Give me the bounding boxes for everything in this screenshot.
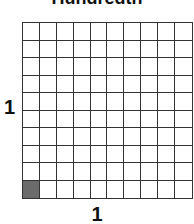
grid-cell — [91, 23, 108, 41]
grid-cell — [141, 23, 158, 41]
grid-cell — [23, 58, 40, 76]
grid-cell — [57, 181, 74, 199]
grid-cell — [23, 76, 40, 94]
grid-cell — [107, 128, 124, 146]
grid-cell — [74, 76, 91, 94]
grid-cell — [158, 41, 175, 59]
grid-cell — [23, 93, 40, 111]
grid-cell — [158, 93, 175, 111]
grid-cell — [57, 111, 74, 129]
grid-cell — [141, 163, 158, 181]
grid-cell — [91, 128, 108, 146]
grid-cell — [141, 93, 158, 111]
grid-cell — [74, 93, 91, 111]
grid-cell — [107, 58, 124, 76]
grid-cell — [158, 58, 175, 76]
grid-cell — [23, 111, 40, 129]
grid-cell — [107, 181, 124, 199]
bottom-length-label: 1 — [0, 203, 194, 224]
grid-cell — [40, 93, 57, 111]
grid-cell — [40, 163, 57, 181]
grid-cell — [141, 41, 158, 59]
side-length-label: 1 — [4, 96, 15, 119]
grid-cell — [91, 93, 108, 111]
grid-cell — [40, 41, 57, 59]
grid-cell — [107, 23, 124, 41]
grid-cell — [141, 76, 158, 94]
grid-cell — [57, 58, 74, 76]
grid-cell — [23, 23, 40, 41]
grid-cell — [158, 76, 175, 94]
grid-cell — [124, 128, 141, 146]
grid-cell — [40, 128, 57, 146]
grid-cell — [40, 76, 57, 94]
grid-cell — [175, 93, 192, 111]
grid-cell — [57, 76, 74, 94]
grid-cell — [91, 76, 108, 94]
grid-cell — [107, 41, 124, 59]
grid-cell — [141, 111, 158, 129]
grid-cell — [40, 58, 57, 76]
grid-cell — [40, 111, 57, 129]
shaded-grid-cell — [23, 181, 40, 199]
grid-cell — [107, 163, 124, 181]
grid-cell — [23, 163, 40, 181]
grid-cell — [40, 146, 57, 164]
grid-cell — [107, 111, 124, 129]
grid-cell — [175, 41, 192, 59]
grid-cell — [91, 181, 108, 199]
grid-cell — [74, 41, 91, 59]
grid-cell — [91, 163, 108, 181]
grid-cell — [23, 146, 40, 164]
grid-cell — [57, 163, 74, 181]
grid-cell — [175, 163, 192, 181]
grid-cell — [175, 181, 192, 199]
grid-cell — [158, 111, 175, 129]
grid-cell — [175, 58, 192, 76]
grid-cell — [74, 58, 91, 76]
grid-cell — [175, 76, 192, 94]
grid-cell — [107, 76, 124, 94]
grid-cell — [107, 93, 124, 111]
grid-cell — [158, 163, 175, 181]
grid-cell — [158, 146, 175, 164]
grid-cell — [74, 23, 91, 41]
grid-cell — [124, 146, 141, 164]
grid-cell — [158, 181, 175, 199]
grid-cell — [91, 146, 108, 164]
grid-cell — [23, 41, 40, 59]
grid-cell — [124, 58, 141, 76]
grid-cell — [91, 41, 108, 59]
grid-cell — [141, 146, 158, 164]
grid-cell — [74, 146, 91, 164]
grid-cell — [57, 23, 74, 41]
grid-cell — [74, 181, 91, 199]
grid-cell — [57, 41, 74, 59]
grid-cell — [124, 76, 141, 94]
grid-cell — [141, 58, 158, 76]
grid-cell — [158, 23, 175, 41]
grid-cell — [124, 181, 141, 199]
grid-cell — [40, 23, 57, 41]
grid-cell — [124, 41, 141, 59]
grid-cell — [158, 128, 175, 146]
grid-cell — [107, 146, 124, 164]
grid-cell — [57, 93, 74, 111]
grid-cell — [124, 23, 141, 41]
grid-cell — [57, 146, 74, 164]
grid-cell — [124, 93, 141, 111]
grid-cell — [23, 128, 40, 146]
grid-cell — [175, 111, 192, 129]
grid-cell — [57, 128, 74, 146]
grid-cell — [175, 146, 192, 164]
grid-cell — [74, 128, 91, 146]
hundredths-grid — [22, 22, 193, 199]
diagram-title: Hundredth — [0, 0, 194, 9]
grid-cell — [175, 128, 192, 146]
grid-cell — [91, 111, 108, 129]
grid-cell — [124, 163, 141, 181]
grid-cell — [175, 23, 192, 41]
grid-cell — [141, 181, 158, 199]
grid-cell — [74, 163, 91, 181]
grid-cell — [91, 58, 108, 76]
